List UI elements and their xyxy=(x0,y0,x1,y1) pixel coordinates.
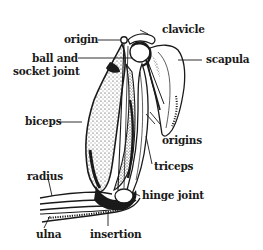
label-triceps: triceps xyxy=(154,161,193,172)
arm-anatomy-diagram: origin ball and socket joint biceps clav… xyxy=(0,0,263,250)
label-origin: origin xyxy=(64,34,98,45)
label-insertion: insertion xyxy=(90,229,141,240)
label-biceps: biceps xyxy=(25,116,61,127)
label-radius: radius xyxy=(27,171,63,182)
biceps-shape xyxy=(86,44,125,192)
label-origins: origins xyxy=(162,135,202,146)
label-hinge-joint: hinge joint xyxy=(142,190,204,201)
label-clavicle: clavicle xyxy=(162,24,205,35)
label-scapula: scapula xyxy=(206,54,249,65)
label-ball-socket-line1: ball and xyxy=(32,53,78,64)
label-ball-socket-line2: socket joint xyxy=(13,66,80,77)
label-ulna: ulna xyxy=(36,229,61,240)
